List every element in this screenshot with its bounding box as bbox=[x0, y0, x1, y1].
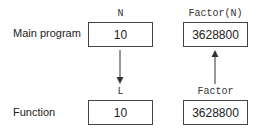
arrow-down-n-to-l bbox=[117, 50, 124, 84]
arrow-up-factor-to-factor-n bbox=[212, 50, 219, 84]
arrows-layer bbox=[0, 0, 263, 131]
